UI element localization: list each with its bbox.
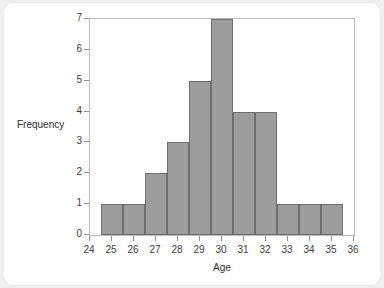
y-axis-tick-label: 2 (62, 167, 82, 177)
x-axis-tick (265, 236, 266, 241)
x-axis-tick (243, 236, 244, 241)
plot-frame (89, 18, 355, 236)
histogram-bar (101, 204, 123, 235)
histogram-bar (211, 19, 233, 235)
x-axis-tick-label: 36 (341, 244, 365, 255)
histogram-bar (277, 204, 299, 235)
histogram-bar (123, 204, 145, 235)
x-axis-title: Age (89, 262, 355, 273)
histogram-bar (145, 173, 167, 235)
y-axis-tick-label: 3 (62, 136, 82, 146)
y-axis-tick-label: 0 (62, 229, 82, 239)
histogram-bar (255, 112, 277, 235)
histogram-bar (189, 81, 211, 235)
x-axis-tick-label: 34 (297, 244, 321, 255)
x-axis-tick-label: 26 (121, 244, 145, 255)
plot-area (90, 19, 354, 235)
histogram-bar (233, 112, 255, 235)
x-axis-tick-label: 31 (231, 244, 255, 255)
x-axis-tick-label: 24 (77, 244, 101, 255)
x-axis-tick-label: 25 (99, 244, 123, 255)
x-axis-tick-label: 29 (187, 244, 211, 255)
x-axis-tick-label: 33 (275, 244, 299, 255)
x-axis-tick (89, 236, 90, 241)
y-axis-tick-label: 1 (62, 198, 82, 208)
y-axis-tick-label: 7 (62, 13, 82, 23)
x-axis-tick (155, 236, 156, 241)
x-axis-tick-label: 32 (253, 244, 277, 255)
x-axis-tick-label: 28 (165, 244, 189, 255)
y-axis-title: Frequency (17, 119, 64, 130)
histogram-bar (299, 204, 321, 235)
x-axis-tick (331, 236, 332, 241)
y-axis-tick-label: 5 (62, 75, 82, 85)
x-axis-tick (287, 236, 288, 241)
x-axis-tick (177, 236, 178, 241)
x-axis-tick-label: 27 (143, 244, 167, 255)
x-axis-tick (221, 236, 222, 241)
x-axis-tick (353, 236, 354, 241)
x-axis-tick (309, 236, 310, 241)
x-axis-tick (111, 236, 112, 241)
x-axis-tick-label: 35 (319, 244, 343, 255)
y-axis-tick-label: 6 (62, 44, 82, 54)
histogram-bar (167, 142, 189, 235)
page-root: Frequency 01234567 242526272829303132333… (0, 0, 384, 288)
x-axis-tick (133, 236, 134, 241)
histogram-figure: Frequency 01234567 242526272829303132333… (0, 0, 384, 288)
y-axis-tick-label: 4 (62, 106, 82, 116)
histogram-bar (321, 204, 343, 235)
x-axis-tick-label: 30 (209, 244, 233, 255)
x-axis-tick (199, 236, 200, 241)
